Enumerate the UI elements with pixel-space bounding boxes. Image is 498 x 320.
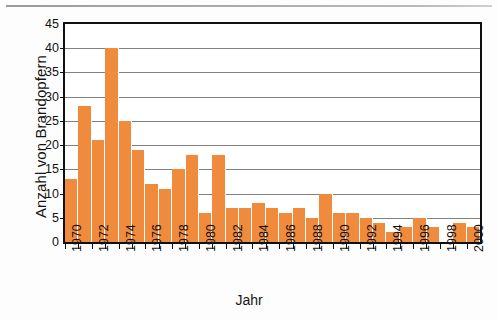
bar-cell <box>266 24 279 242</box>
bar-cell <box>400 24 413 242</box>
x-tick-label: 1982 <box>231 224 245 252</box>
x-tick-mark <box>105 244 106 249</box>
y-tick-label: 45 <box>45 17 65 31</box>
y-tick-mark <box>60 97 65 98</box>
bar <box>105 48 118 242</box>
x-tick-label: 1986 <box>284 224 298 252</box>
bar <box>78 106 91 242</box>
x-tick-mark <box>293 244 294 249</box>
x-tick-label: 1978 <box>177 224 191 252</box>
x-tick-label: 1992 <box>365 224 379 252</box>
x-tick-mark <box>132 244 133 249</box>
x-tick-label: 1980 <box>204 224 218 252</box>
x-tick-mark <box>386 244 387 249</box>
x-tick-label: 1974 <box>124 224 138 252</box>
x-tick-mark <box>226 244 227 249</box>
x-tick-mark <box>279 244 280 249</box>
bar-cell <box>413 24 426 242</box>
x-axis-ticks: 1970197219741976197819801982198419861988… <box>63 244 482 250</box>
bar-cell <box>78 24 91 242</box>
x-tick-mark <box>199 244 200 249</box>
x-tick-mark <box>78 244 79 249</box>
bar-cell <box>65 24 78 242</box>
bar-cell <box>333 24 346 242</box>
x-tick-label: 1970 <box>70 224 84 252</box>
x-tick-mark <box>413 244 414 249</box>
x-tick-mark <box>346 244 347 249</box>
x-tick-mark <box>185 244 186 249</box>
bar-cell <box>172 24 185 242</box>
x-tick-label: 1988 <box>311 224 325 252</box>
bar-cell <box>105 24 118 242</box>
x-tick-mark <box>333 244 334 249</box>
x-tick-mark <box>373 244 374 249</box>
x-tick-mark <box>145 244 146 249</box>
x-tick-mark <box>467 244 468 249</box>
bar-cell <box>199 24 212 242</box>
y-tick-mark <box>60 194 65 195</box>
y-tick-mark <box>60 72 65 73</box>
bar-cell <box>360 24 373 242</box>
bar-cell <box>119 24 132 242</box>
y-tick-mark <box>60 169 65 170</box>
bar-cell <box>319 24 332 242</box>
bar-cell <box>252 24 265 242</box>
x-tick-label: 1996 <box>418 224 432 252</box>
y-axis-title: Anzahl von Brandopfern <box>32 32 49 242</box>
x-tick-label: 1972 <box>97 224 111 252</box>
bar-cell <box>453 24 466 242</box>
bar-cell <box>293 24 306 242</box>
bar-cell <box>346 24 359 242</box>
x-tick-mark <box>239 244 240 249</box>
bar-cell <box>239 24 252 242</box>
x-tick-label: 2000 <box>472 224 486 252</box>
bar-cell <box>373 24 386 242</box>
bar-cell <box>427 24 440 242</box>
y-tick-mark <box>60 121 65 122</box>
x-tick-mark <box>159 244 160 249</box>
x-tick-mark <box>266 244 267 249</box>
bar-cell <box>386 24 399 242</box>
x-axis-title: Jahr <box>0 292 498 308</box>
bar-cell <box>159 24 172 242</box>
y-tick-mark <box>60 145 65 146</box>
y-tick-mark <box>60 218 65 219</box>
x-tick-label: 1976 <box>150 224 164 252</box>
x-tick-mark <box>212 244 213 249</box>
bar-cell <box>279 24 292 242</box>
x-tick-label: 1984 <box>257 224 271 252</box>
bar-cell <box>92 24 105 242</box>
x-tick-label: 1994 <box>391 224 405 252</box>
bar-cell <box>467 24 480 242</box>
bar-series <box>65 24 480 242</box>
bar-cell <box>145 24 158 242</box>
bar-cell <box>212 24 225 242</box>
x-tick-mark <box>453 244 454 249</box>
plot-inner <box>65 24 480 242</box>
bar-cell <box>132 24 145 242</box>
x-tick-mark <box>65 244 66 249</box>
x-tick-mark <box>92 244 93 249</box>
page-separator-rule <box>6 5 492 7</box>
plot-area: 051015202530354045 <box>63 22 482 244</box>
x-tick-mark <box>440 244 441 249</box>
x-tick-mark <box>306 244 307 249</box>
x-tick-mark <box>426 244 427 249</box>
bar-cell <box>306 24 319 242</box>
x-tick-label: 1998 <box>445 224 459 252</box>
y-tick-mark <box>60 48 65 49</box>
bar-cell <box>186 24 199 242</box>
x-tick-mark <box>360 244 361 249</box>
x-tick-label: 1990 <box>338 224 352 252</box>
x-tick-mark <box>400 244 401 249</box>
bar-cell <box>226 24 239 242</box>
x-tick-mark <box>252 244 253 249</box>
x-tick-mark <box>319 244 320 249</box>
chart-figure: Anzahl von Brandopfern Jahr 051015202530… <box>0 0 498 320</box>
x-tick-mark <box>172 244 173 249</box>
x-tick-mark <box>119 244 120 249</box>
bar-cell <box>440 24 453 242</box>
